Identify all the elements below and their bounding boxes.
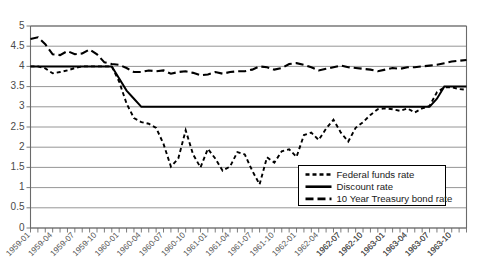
interest-rates-chart: 00.511.522.533.544.55 1959-011959-041959…: [0, 0, 491, 277]
legend-label-0: Federal funds rate: [337, 169, 415, 180]
series-line-2: [31, 37, 467, 75]
y-tick-label: 3: [19, 100, 25, 111]
y-tick-label: 1: [19, 181, 25, 192]
y-axis-labels: 00.511.522.533.544.55: [11, 20, 25, 233]
legend-label-1: Discount rate: [337, 181, 394, 192]
y-tick-label: 4: [19, 60, 25, 71]
legend-label-2: 10 Year Treasury bond rate: [337, 193, 453, 204]
y-tick-label: 2: [19, 141, 25, 152]
x-axis-labels: 1959-011959-041959-071959-101960-011960-…: [4, 230, 453, 258]
y-tick-label: 0.5: [11, 201, 25, 212]
y-tick-label: 5: [19, 20, 25, 31]
y-tick-label: 1.5: [11, 161, 25, 172]
chart-legend: Federal funds rateDiscount rate10 Year T…: [299, 166, 453, 206]
data-series: [31, 37, 467, 184]
y-axis-ticks: [27, 26, 31, 228]
x-tick-label: 1963-10: [426, 230, 454, 258]
y-tick-label: 4.5: [11, 40, 25, 51]
chart-canvas: 00.511.522.533.544.55 1959-011959-041959…: [0, 0, 491, 277]
y-tick-label: 3.5: [11, 80, 25, 91]
y-tick-label: 2.5: [11, 121, 25, 132]
